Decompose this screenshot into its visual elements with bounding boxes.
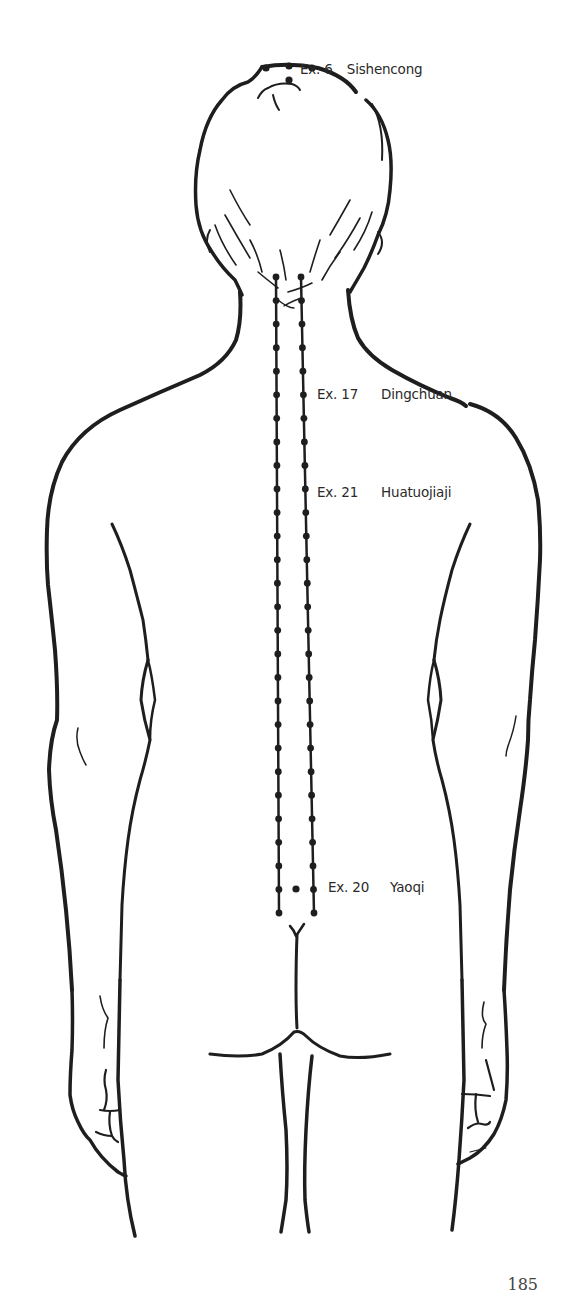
acupoint-dot (274, 462, 281, 469)
label-code: Ex. 17 (317, 386, 377, 402)
acupoint-dot (275, 839, 282, 846)
acupoint-dot (275, 745, 282, 752)
label-name: Sishencong (347, 61, 423, 77)
acupoint-dot (306, 698, 313, 705)
acupoint-dot (310, 863, 317, 870)
acupoint-dot (273, 391, 280, 398)
label-name: Yaoqi (390, 879, 424, 895)
acupoint-dot (311, 910, 318, 917)
acupoint-dot (308, 792, 315, 799)
acupoint-dot (285, 62, 292, 69)
acupoint-dot (273, 321, 280, 328)
acupoint-dot (274, 580, 281, 587)
acupoint-dot (305, 651, 312, 658)
acupoint-dot (303, 556, 310, 563)
label-code: Ex. 6 (300, 61, 333, 77)
acupoint-dot (303, 533, 310, 540)
acupoint-dot (304, 603, 311, 610)
acupoint-dot (298, 274, 305, 281)
label-ex21-huatuojiaji: Ex. 21 Huatuojiaji (317, 484, 451, 500)
acupoint-dot (306, 674, 313, 681)
acupoint-dot (274, 556, 281, 563)
page-number: 185 (507, 1275, 538, 1294)
acupoint-dot (276, 886, 283, 893)
head-outline (196, 65, 392, 295)
acupoint-dot (309, 815, 316, 822)
acupoint-dot (300, 391, 307, 398)
acupoint-dot (302, 462, 309, 469)
label-ex17-dingchuan: Ex. 17 Dingchuan (317, 386, 452, 402)
acupoint-dot (274, 509, 281, 516)
acupoint-dot (273, 274, 280, 281)
acupoint-dot (305, 627, 312, 634)
acupoint-dot (302, 486, 309, 493)
acupoint-dot (275, 768, 282, 775)
acupoint-dot (299, 321, 306, 328)
acupoint-dot (273, 439, 280, 446)
acupoint-dot (275, 721, 282, 728)
acupoint-dot (309, 839, 316, 846)
label-ex20-yaoqi: Ex. 20 Yaoqi (328, 879, 424, 895)
acupoint-dot (298, 297, 305, 304)
acupoint-dot (274, 533, 281, 540)
label-ex6-sishencong: Ex. 6 Sishencong (300, 61, 422, 77)
acupoint-dot (273, 344, 280, 351)
acupoint-dot (262, 64, 269, 71)
acupoint-dot (273, 297, 280, 304)
acupoint-dot (275, 815, 282, 822)
acupoint-dot (275, 698, 282, 705)
acupoint-dot (273, 368, 280, 375)
acupoint-dot (276, 910, 283, 917)
acupoint-dot (274, 627, 281, 634)
acupoint-dot (274, 486, 281, 493)
acupoint-dot (275, 674, 282, 681)
acupoint-dot (285, 76, 292, 83)
acupoint-dot (304, 580, 311, 587)
acupoint-dot (307, 745, 314, 752)
acupoint-dot (275, 792, 282, 799)
acupoint-dot (302, 509, 309, 516)
yaoqi-point (292, 885, 299, 892)
label-name: Dingchuan (381, 386, 452, 402)
acupoint-dot (274, 651, 281, 658)
acupoint-dot (310, 886, 317, 893)
acupoint-dot (307, 721, 314, 728)
acupoint-dot (300, 368, 307, 375)
acupoint-dot (308, 768, 315, 775)
acupoint-dot (301, 439, 308, 446)
label-name: Huatuojiaji (381, 484, 451, 500)
acupoint-dot (275, 863, 282, 870)
acupoint-dot (301, 415, 308, 422)
label-code: Ex. 21 (317, 484, 377, 500)
body-outline (47, 290, 541, 1236)
label-code: Ex. 20 (328, 879, 386, 895)
acupoint-dot (274, 603, 281, 610)
acupoint-dot (273, 415, 280, 422)
acupoint-dot (299, 344, 306, 351)
